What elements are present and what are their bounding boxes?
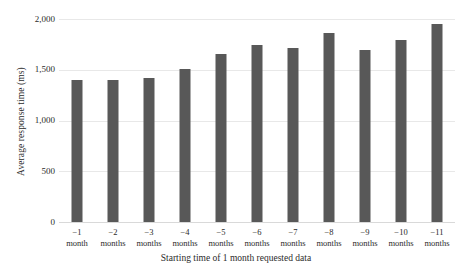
y-axis-tick-label: 500 xyxy=(9,167,55,176)
gridline-0 xyxy=(59,222,455,223)
bar xyxy=(288,48,299,222)
bar xyxy=(216,54,227,222)
bar-slot xyxy=(95,19,131,222)
bar xyxy=(396,40,407,222)
bar xyxy=(144,78,155,222)
bar-slot xyxy=(203,19,239,222)
y-axis-tick-label: 1,500 xyxy=(9,65,55,74)
bar xyxy=(72,80,83,222)
bar-slot xyxy=(167,19,203,222)
bar xyxy=(108,80,119,222)
bar xyxy=(432,24,443,222)
bar xyxy=(324,33,335,222)
bar-slot xyxy=(239,19,275,222)
y-axis-tick-label: 1,000 xyxy=(9,116,55,125)
bar-slot xyxy=(275,19,311,222)
bar-series xyxy=(59,19,455,222)
bar-slot xyxy=(131,19,167,222)
y-axis-tick-label: 2,000 xyxy=(9,15,55,24)
bar xyxy=(252,45,263,222)
x-axis-tick-label: −11months xyxy=(414,227,460,248)
bar-slot xyxy=(59,19,95,222)
bar-slot xyxy=(383,19,419,222)
bar-slot xyxy=(347,19,383,222)
bar-slot xyxy=(311,19,347,222)
bar-chart-figure: Average response time (ms) 05001,0001,50… xyxy=(0,0,472,275)
bar xyxy=(180,69,191,222)
x-axis-title: Starting time of 1 month requested data xyxy=(0,252,472,264)
y-axis-tick-label: 0 xyxy=(9,218,55,227)
bar-slot xyxy=(419,19,455,222)
bar xyxy=(360,50,371,222)
plot-area xyxy=(59,19,455,222)
